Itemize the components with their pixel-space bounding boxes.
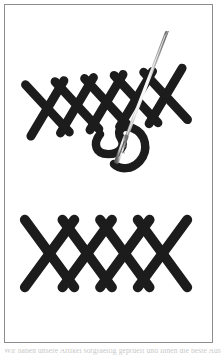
stitch-lower-4	[138, 220, 188, 288]
illustration-frame	[4, 4, 213, 343]
page-root: Wir haben unsere Artikel sorgfaeltig gep…	[0, 0, 221, 360]
caption-strip: Wir haben unsere Artikel sorgfaeltig gep…	[0, 349, 221, 360]
caption-line: Wir haben unsere Artikel sorgfaeltig gep…	[4, 349, 218, 355]
lower-stitch-row	[25, 220, 187, 288]
upper-stitch-row	[26, 68, 188, 136]
cross-stitch-illustration	[5, 5, 212, 342]
